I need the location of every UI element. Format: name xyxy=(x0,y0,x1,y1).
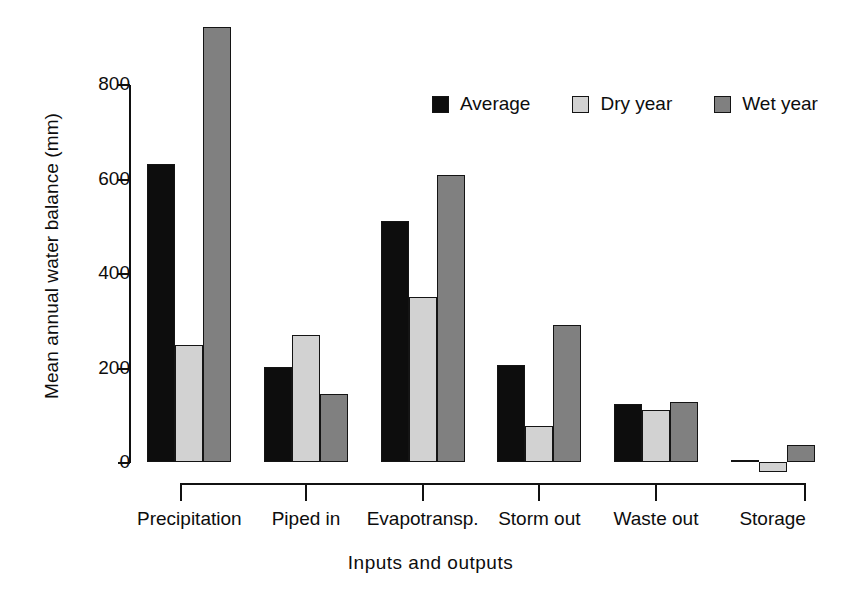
bar-group-evapotransp xyxy=(381,10,465,462)
x-tick-label-waste-out: Waste out xyxy=(614,508,699,530)
bar-group-precipitation xyxy=(147,10,231,462)
x-tick-mark xyxy=(804,483,806,501)
x-tick-label-storm-out: Storm out xyxy=(498,508,580,530)
chart-legend: AverageDry yearWet year xyxy=(432,93,860,115)
bar xyxy=(437,175,465,462)
legend-item-average[interactable]: Average xyxy=(432,93,530,115)
bar xyxy=(147,164,175,462)
legend-swatch-icon xyxy=(572,96,589,113)
x-tick-mark xyxy=(422,483,424,501)
bar xyxy=(614,404,642,462)
y-tick-label: 600 xyxy=(70,168,130,190)
y-tick-label: 200 xyxy=(70,357,130,379)
legend-label: Average xyxy=(460,93,530,115)
x-tick-label-precipitation: Precipitation xyxy=(137,508,242,530)
bar xyxy=(731,460,759,463)
legend-swatch-icon xyxy=(432,96,449,113)
bar-group-storm-out xyxy=(497,10,581,462)
x-tick-label-piped-in: Piped in xyxy=(272,508,341,530)
bar xyxy=(264,367,292,462)
x-axis-label-text: Inputs and outputs xyxy=(348,552,513,573)
legend-label: Wet year xyxy=(742,93,818,115)
y-axis-label: Mean annual water balance (mm) xyxy=(41,56,63,456)
bar xyxy=(497,365,525,462)
x-axis-bracket xyxy=(180,483,806,501)
bar xyxy=(553,325,581,462)
bar xyxy=(175,345,203,462)
legend-item-wet-year[interactable]: Wet year xyxy=(714,93,818,115)
y-tick-label: 0 xyxy=(70,451,130,473)
y-tick-label: 400 xyxy=(70,262,130,284)
bar-group-piped-in xyxy=(264,10,348,462)
x-tick-label-evapotransp: Evapotransp. xyxy=(367,508,479,530)
bar xyxy=(409,297,437,462)
y-tick-label: 800 xyxy=(70,73,130,95)
plot-area xyxy=(131,10,831,463)
x-tick-mark xyxy=(180,483,182,501)
bar xyxy=(787,445,815,462)
bar xyxy=(381,221,409,462)
x-tick-mark xyxy=(305,483,307,501)
bar xyxy=(292,335,320,462)
bar-group-storage xyxy=(731,10,815,462)
legend-item-dry-year[interactable]: Dry year xyxy=(572,93,672,115)
x-axis-label: Inputs and outputs xyxy=(0,552,861,574)
bar xyxy=(320,394,348,462)
legend-swatch-icon xyxy=(714,96,731,113)
x-tick-label-storage: Storage xyxy=(739,508,806,530)
x-axis-rail xyxy=(180,483,806,485)
bar xyxy=(642,410,670,462)
water-balance-bar-chart: Mean annual water balance (mm) 020040060… xyxy=(0,0,861,603)
x-tick-mark xyxy=(655,483,657,501)
bar xyxy=(759,462,787,472)
bar-group-waste-out xyxy=(614,10,698,462)
bar xyxy=(203,27,231,462)
bar xyxy=(525,426,553,462)
bar xyxy=(670,402,698,462)
legend-label: Dry year xyxy=(600,93,672,115)
x-tick-mark xyxy=(538,483,540,501)
